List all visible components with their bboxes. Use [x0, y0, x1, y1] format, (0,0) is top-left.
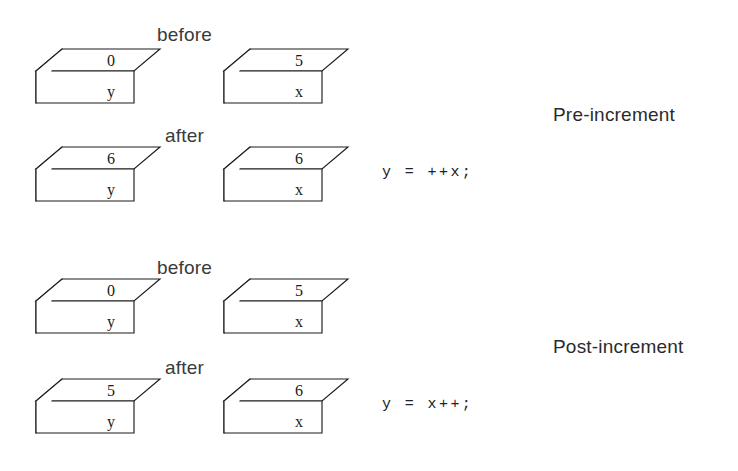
variable-name: x	[250, 314, 348, 330]
row-label-after-pre: after	[165, 125, 204, 147]
variable-name: x	[250, 414, 348, 430]
variable-box-x-after-pre: 6 x	[224, 146, 348, 202]
section-label-pre-increment: Pre-increment	[553, 104, 675, 126]
variable-box-x-before-post: 5 x	[224, 278, 348, 334]
variable-name: x	[250, 182, 348, 198]
row-label-before-post: before	[157, 257, 212, 279]
code-expression-post-increment: y = x++;	[382, 396, 473, 413]
row-label-before-pre: before	[157, 24, 212, 46]
variable-name: x	[250, 84, 348, 100]
diagram-canvas: before 0 y 5 x after 6 y	[0, 0, 738, 471]
row-label-after-post: after	[165, 357, 204, 379]
variable-value: 6	[250, 383, 348, 399]
variable-box-y-before-post: 0 y	[36, 278, 160, 334]
code-expression-pre-increment: y = ++x;	[382, 164, 473, 181]
variable-value: 0	[62, 53, 160, 69]
variable-value: 5	[250, 53, 348, 69]
variable-name: y	[62, 182, 160, 198]
variable-box-x-before-pre: 5 x	[224, 48, 348, 104]
variable-box-y-after-post: 5 y	[36, 378, 160, 434]
variable-value: 5	[250, 283, 348, 299]
variable-box-y-before-pre: 0 y	[36, 48, 160, 104]
variable-value: 0	[62, 283, 160, 299]
variable-value: 5	[62, 383, 160, 399]
variable-name: y	[62, 414, 160, 430]
variable-name: y	[62, 84, 160, 100]
variable-value: 6	[62, 151, 160, 167]
variable-value: 6	[250, 151, 348, 167]
section-label-post-increment: Post-increment	[553, 336, 684, 358]
variable-box-y-after-pre: 6 y	[36, 146, 160, 202]
variable-box-x-after-post: 6 x	[224, 378, 348, 434]
variable-name: y	[62, 314, 160, 330]
